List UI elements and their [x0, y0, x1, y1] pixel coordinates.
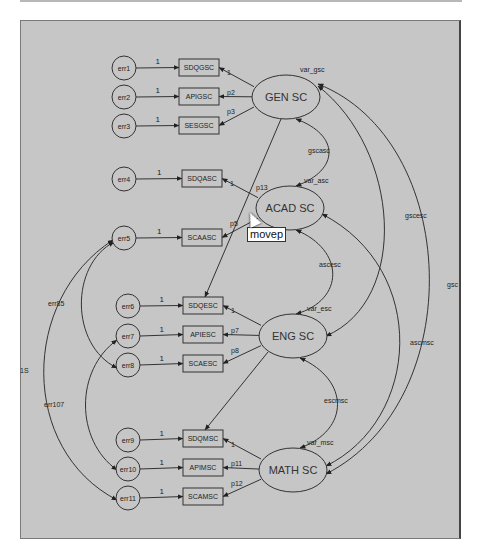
error-path[interactable] — [136, 238, 182, 239]
loading-label: p7 — [231, 327, 239, 335]
loading-path[interactable] — [223, 346, 261, 364]
cross-loading-label: p13 — [256, 184, 268, 192]
loading-label: p11 — [231, 460, 242, 468]
error-term-label: err11 — [120, 495, 136, 502]
error-term-label: err5 — [118, 235, 131, 242]
loading-label: p8 — [231, 347, 239, 355]
variance-label: var_gsc — [300, 66, 325, 74]
error-weight-label: 1 — [157, 168, 162, 177]
observed-variable-label: SCAESC — [189, 360, 218, 367]
error-term-label: err4 — [118, 176, 131, 183]
covariance-gen-math[interactable] — [318, 84, 429, 474]
loading-label: p3 — [227, 108, 235, 116]
loading-path[interactable] — [223, 439, 261, 459]
covariance-label: gsc — [447, 281, 458, 289]
error-term-label: err10 — [120, 466, 136, 473]
covariance-err7-err10[interactable] — [86, 340, 118, 470]
observed-variable-label: APIGSC — [186, 93, 212, 100]
latent-variable-label: MATH SC — [269, 464, 318, 476]
error-weight-label: 1 — [157, 227, 162, 236]
covariance-acad-math[interactable] — [322, 214, 400, 466]
covariance-label: gscasc — [308, 147, 330, 155]
error-path[interactable] — [140, 364, 183, 366]
loading-label: p12 — [231, 480, 243, 488]
error-weight-label: 1 — [160, 325, 165, 334]
error-path[interactable] — [140, 306, 183, 307]
loading-label: p2 — [227, 89, 235, 97]
covariance-acad-eng[interactable] — [296, 230, 333, 314]
loading-path[interactable] — [219, 107, 254, 126]
observed-variable-label: APIMSC — [190, 464, 217, 471]
error-term-label: err6 — [122, 303, 135, 310]
variance-label: var_msc — [307, 439, 334, 447]
latent-variable-label: GEN SC — [265, 91, 307, 103]
covariance-label: err107 — [44, 401, 64, 408]
error-weight-label: 1 — [160, 354, 165, 363]
error-path[interactable] — [140, 497, 183, 499]
error-weight-label: 1 — [160, 429, 165, 438]
loading-path[interactable] — [222, 179, 258, 198]
error-term-label: err3 — [118, 123, 131, 130]
latent-variable-label: ENG SC — [272, 330, 314, 342]
loading-label: p5 — [230, 220, 238, 228]
error-weight-label: 1 — [160, 487, 165, 496]
loading-path[interactable] — [219, 68, 254, 87]
observed-variable-label: SCAASC — [188, 234, 217, 241]
error-weight-label: 1 — [156, 86, 161, 95]
variance-label: var_asc — [304, 177, 329, 185]
error-path[interactable] — [136, 97, 179, 98]
error-path[interactable] — [140, 439, 183, 441]
error-weight-label: 1 — [156, 115, 161, 124]
observed-variable-label: SCAMSC — [188, 493, 218, 500]
error-path[interactable] — [136, 126, 179, 127]
covariance-label: ascesc — [319, 261, 341, 268]
latent-variable-label: ACAD SC — [266, 202, 315, 214]
error-path[interactable] — [140, 468, 183, 470]
error-term-label: err7 — [122, 333, 135, 340]
observed-variable-label: APIESC — [190, 331, 216, 338]
covariance-label: 1S — [20, 367, 29, 374]
observed-variable-label: SDQGSC — [184, 64, 214, 72]
covariance-err5-err8[interactable] — [81, 242, 117, 368]
error-term-label: err2 — [118, 94, 131, 101]
error-path[interactable] — [136, 68, 179, 69]
loading-label: 1 — [231, 441, 235, 448]
variance-label: var_esc — [307, 305, 332, 313]
error-weight-label: 1 — [160, 458, 165, 467]
loading-label: 1 — [231, 307, 235, 314]
covariance-label: ascmsc — [410, 339, 434, 346]
loading-path[interactable] — [223, 335, 261, 336]
error-weight-label: 1 — [156, 57, 161, 66]
error-path[interactable] — [140, 335, 183, 337]
error-weight-label: 1 — [160, 295, 165, 304]
error-term-label: err1 — [118, 65, 131, 72]
covariance-label: escmsc — [324, 397, 348, 404]
loading-path[interactable] — [223, 306, 261, 326]
observed-variable-label: SDQMSC — [188, 435, 219, 443]
sem-path-diagram: 111111111111p2p31p51p7p81p11p12p13gscasc… — [0, 0, 481, 555]
move-parameter-tooltip: movep — [247, 227, 286, 242]
error-term-label: err8 — [122, 362, 135, 369]
loading-label: 1 — [227, 69, 231, 76]
error-term-label: err9 — [122, 437, 135, 444]
covariance-label: gscesc — [405, 212, 427, 220]
error-path[interactable] — [136, 179, 182, 180]
observed-variable-label: SDQESC — [188, 302, 218, 310]
loading-label: 1 — [230, 180, 234, 187]
covariance-label: err85 — [48, 300, 64, 307]
loading-path[interactable] — [223, 468, 261, 470]
observed-variable-label: SESGSC — [184, 122, 213, 129]
observed-variable-label: SDQASC — [187, 175, 217, 183]
